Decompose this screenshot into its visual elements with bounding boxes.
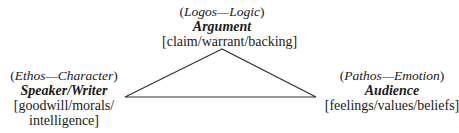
speaker-attributes-line1: [goodwill/morals/ (4, 98, 124, 113)
speaker-attributes-line2: intelligence] (4, 113, 124, 128)
pathos-label: (Pathos—Emotion) (322, 68, 459, 83)
rhetorical-triangle-shape (125, 49, 316, 97)
node-audience: (Pathos—Emotion) Audience [feelings/valu… (322, 68, 459, 113)
audience-title: Audience (322, 83, 459, 98)
ethos-label: (Ethos—Character) (4, 68, 124, 83)
argument-attributes: [claim/warrant/backing] (162, 34, 282, 49)
node-speaker-writer: (Ethos—Character) Speaker/Writer [goodwi… (4, 68, 124, 128)
node-argument: (Logos—Logic) Argument [claim/warrant/ba… (162, 4, 282, 49)
logos-label: (Logos—Logic) (162, 4, 282, 19)
argument-title: Argument (162, 19, 282, 34)
audience-attributes: [feelings/values/beliefs] (322, 98, 459, 113)
speaker-writer-title: Speaker/Writer (4, 83, 124, 98)
